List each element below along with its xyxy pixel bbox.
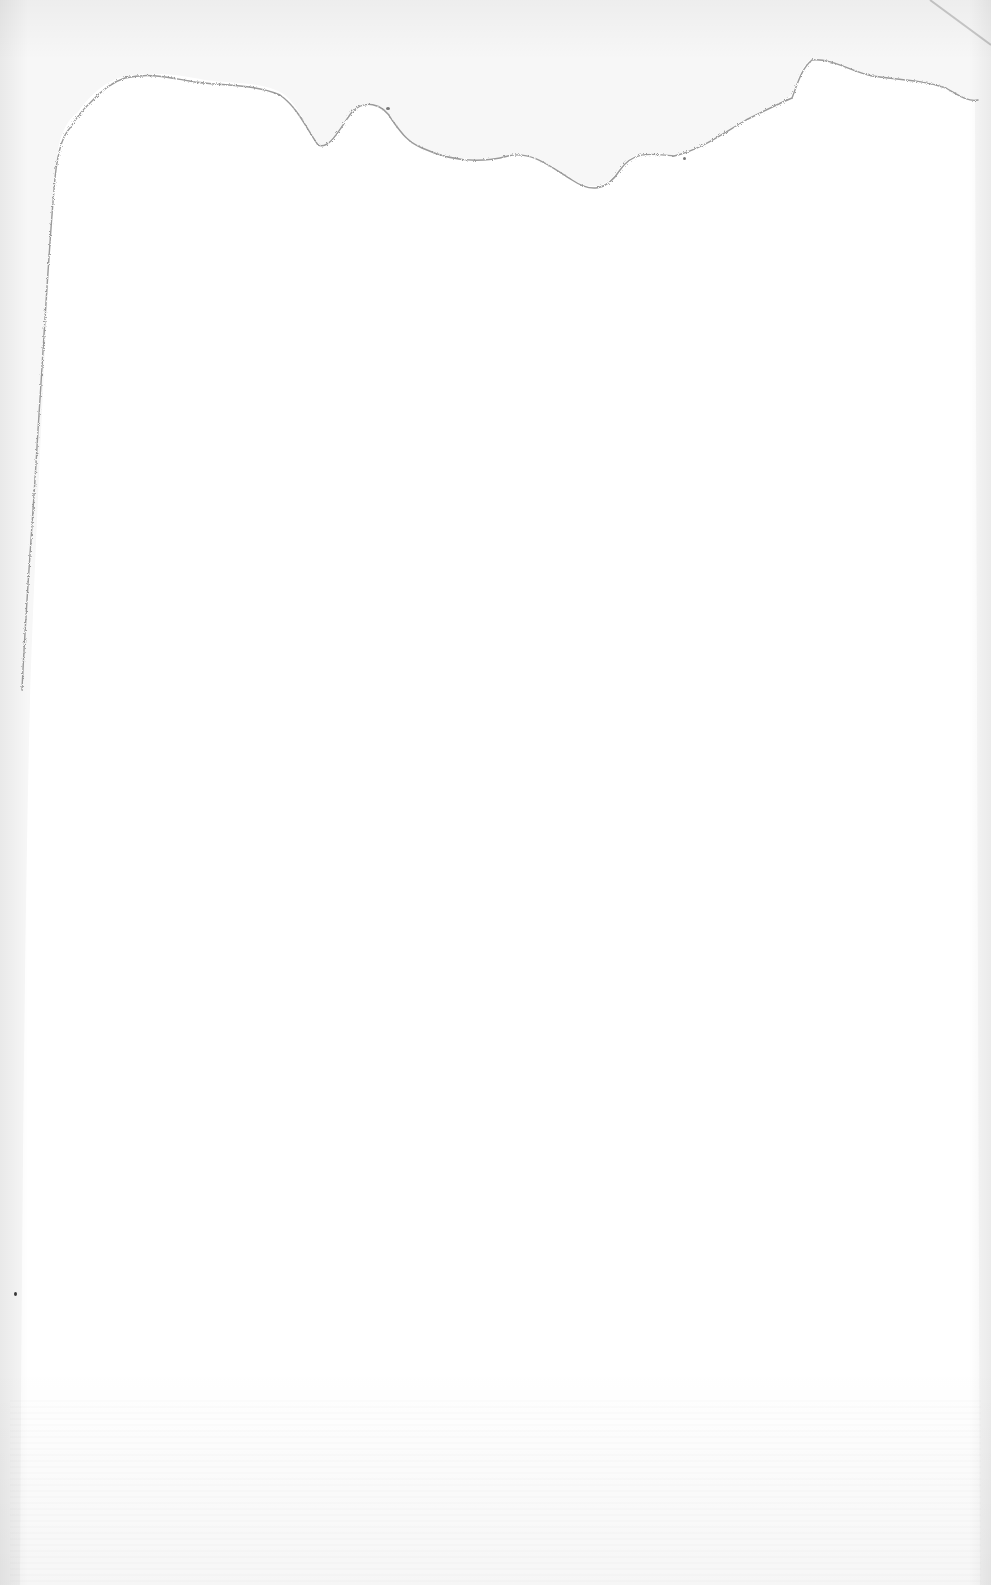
scan-speck <box>14 1292 17 1296</box>
paper-body <box>20 60 980 1585</box>
tear-speck <box>386 107 390 110</box>
torn-paper-sheet <box>0 0 991 1585</box>
corner-fold <box>930 0 991 45</box>
scanned-page <box>0 0 991 1585</box>
tear-speck <box>683 157 686 160</box>
bleed-through-texture <box>10 1400 981 1585</box>
